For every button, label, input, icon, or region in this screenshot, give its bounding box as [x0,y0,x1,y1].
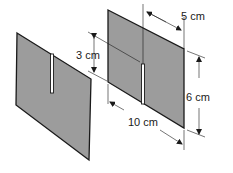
right-plate [108,4,184,128]
left-plate-slot [51,54,54,93]
height-dimension: 6 cm [186,51,210,137]
plates-diagram: 3 cm 5 cm 6 cm 10 cm [0,0,233,173]
width-label: 10 cm [128,116,158,128]
height-label: 6 cm [186,91,210,103]
slot-length-label: 3 cm [76,49,100,61]
half-width-label: 5 cm [181,10,205,22]
right-plate-slot [142,64,145,104]
